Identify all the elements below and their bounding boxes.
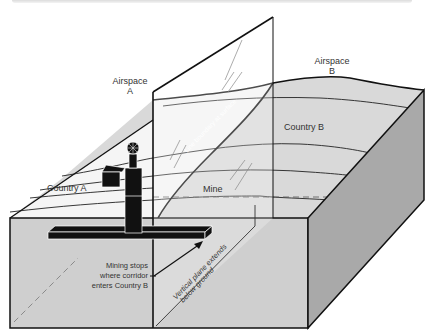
label-mine: Mine (203, 184, 223, 194)
label-mining-stops-3: enters Country B (92, 281, 148, 290)
label-airspace-a-letter: A (127, 86, 133, 96)
label-airspace-a: Airspace (112, 76, 147, 86)
territorial-boundary-diagram: Airspace A Airspace B Country A Country … (0, 0, 435, 334)
label-country-b: Country B (284, 122, 324, 132)
label-airspace-b: Airspace (314, 56, 349, 66)
label-country-a: Country A (47, 183, 87, 193)
label-airspace-b-letter: B (329, 66, 335, 76)
label-mining-stops-2: where corridor (99, 271, 148, 280)
label-mining-stops-1: Mining stops (106, 261, 148, 270)
